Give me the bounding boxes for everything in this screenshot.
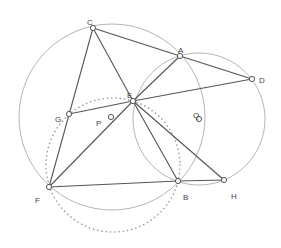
- point-G[interactable]: [66, 111, 71, 116]
- segment-EF: [49, 101, 133, 187]
- point-P[interactable]: [108, 114, 113, 119]
- label-A: A: [178, 46, 184, 55]
- label-F: F: [35, 196, 40, 205]
- circles-layer: [19, 24, 265, 232]
- label-C: C: [87, 18, 93, 27]
- label-P: P: [96, 119, 101, 128]
- label-E: E: [127, 91, 132, 100]
- segment-BH: [178, 180, 224, 181]
- point-H[interactable]: [221, 177, 226, 182]
- segment-FB: [49, 181, 178, 187]
- geometry-diagram: CADEGPQFBH: [0, 0, 281, 248]
- point-B[interactable]: [175, 178, 180, 183]
- label-D: D: [259, 76, 265, 85]
- label-B: B: [183, 193, 188, 202]
- segment-EA: [133, 56, 180, 101]
- points-layer: [46, 25, 254, 189]
- segment-ED: [133, 79, 252, 101]
- label-G: G: [55, 115, 61, 124]
- label-Q: Q: [193, 111, 199, 120]
- segment-CF: [49, 28, 93, 187]
- point-D[interactable]: [249, 76, 254, 81]
- segment-EH: [133, 101, 224, 180]
- point-F[interactable]: [46, 184, 51, 189]
- label-H: H: [231, 192, 237, 201]
